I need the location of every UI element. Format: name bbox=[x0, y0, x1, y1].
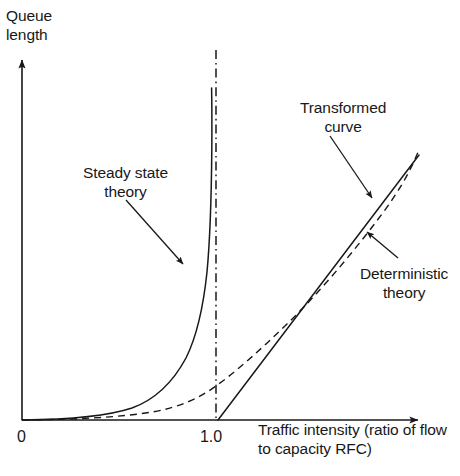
leader-deterministic bbox=[367, 232, 398, 258]
y-axis-label-line1: Queue bbox=[6, 7, 52, 24]
x-axis-label-line2: to capacity RFC) bbox=[258, 440, 372, 457]
series-transformed-curve bbox=[22, 152, 418, 420]
annotation-steady-state-line2: theory bbox=[104, 183, 146, 200]
annotation-transformed-curve: Transformedcurve bbox=[300, 98, 386, 136]
y-axis-label: Queuelength bbox=[6, 6, 52, 44]
annotation-deterministic-theory: Deterministictheory bbox=[360, 264, 448, 302]
annotation-transformed-line2: curve bbox=[324, 118, 361, 135]
chart-canvas bbox=[0, 0, 460, 476]
figure-queueing-curves: Queuelength 0 1.0 Traffic intensity (rat… bbox=[0, 0, 460, 476]
leader-transformed bbox=[330, 136, 372, 198]
x-tick-label-one: 1.0 bbox=[200, 428, 222, 446]
annotation-transformed-line1: Transformed bbox=[300, 99, 386, 116]
y-axis-label-line2: length bbox=[6, 26, 48, 43]
annotation-steady-state-theory: Steady statetheory bbox=[83, 163, 168, 201]
leader-steady-state bbox=[126, 200, 183, 264]
series-steady-state-theory bbox=[22, 88, 212, 420]
x-tick-label-zero: 0 bbox=[17, 428, 26, 446]
annotation-steady-state-line1: Steady state bbox=[83, 164, 168, 181]
x-axis-label-line1: Traffic intensity (ratio of flow bbox=[258, 421, 447, 438]
annotation-deterministic-line1: Deterministic bbox=[360, 265, 448, 282]
annotation-deterministic-line2: theory bbox=[383, 284, 425, 301]
x-axis-label: Traffic intensity (ratio of flowto capac… bbox=[258, 420, 447, 458]
